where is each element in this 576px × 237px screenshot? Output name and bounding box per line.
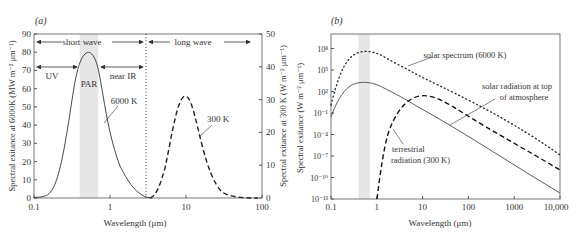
svg-text:300 K: 300 K (207, 114, 230, 124)
svg-text:100: 100 (255, 202, 269, 212)
svg-text:10⁻¹⁰: 10⁻¹⁰ (310, 174, 328, 183)
svg-text:10: 10 (22, 175, 32, 185)
y-axis-label: Spectral exitance (W m⁻² μm⁻¹) (295, 63, 305, 173)
svg-text:40: 40 (266, 62, 276, 72)
label-solar-spectrum: solar spectrum (6000 K) (408, 50, 507, 66)
svg-text:10: 10 (266, 160, 276, 170)
svg-text:60: 60 (22, 84, 32, 94)
svg-text:short wave: short wave (62, 37, 101, 47)
svg-text:10⁻⁷: 10⁻⁷ (313, 152, 328, 161)
svg-text:10⁻⁴: 10⁻⁴ (313, 131, 328, 140)
svg-text:50: 50 (22, 102, 32, 112)
svg-text:1000: 1000 (505, 202, 524, 212)
svg-text:30: 30 (266, 95, 276, 105)
svg-text:10⁵: 10⁵ (317, 66, 328, 75)
svg-text:20: 20 (266, 127, 276, 137)
svg-text:0.1: 0.1 (325, 202, 336, 212)
label-6000k: 6000 K (104, 96, 138, 123)
y-axis-right-label: Spectral exitance at 300 K (W m⁻² μm⁻¹) (278, 45, 288, 187)
panel-b-label: (b) (331, 15, 343, 27)
x-axis-label: Wavelength (μm) (104, 218, 167, 228)
svg-text:terrestrial: terrestrial (392, 144, 425, 154)
panel-b: (b) 10⁻¹³ 10⁻¹⁰ 10⁻⁷ 10⁻⁴ 10⁻¹ 10² 10⁵ 1… (295, 15, 569, 228)
svg-text:70: 70 (22, 65, 32, 75)
par-band (80, 34, 99, 198)
panel-a: (a) 0 10 20 30 40 50 60 70 80 90 0 10 20… (7, 15, 288, 228)
figure: (a) 0 10 20 30 40 50 60 70 80 90 0 10 20… (0, 0, 576, 237)
svg-text:90: 90 (22, 29, 32, 39)
svg-text:of atmosphere: of atmosphere (500, 92, 549, 102)
visible-band (359, 34, 370, 199)
svg-text:30: 30 (22, 138, 32, 148)
svg-text:10,000: 10,000 (544, 202, 569, 212)
label-solar-top-atmosphere: solar radiation at top of atmosphere (450, 81, 552, 125)
near-ir-arrow: near IR (101, 67, 143, 81)
y-axis-left-ticks: 0 10 20 30 40 50 60 70 80 90 (22, 29, 37, 203)
label-300k: 300 K (199, 114, 230, 137)
svg-text:solar spectrum (6000 K): solar spectrum (6000 K) (424, 50, 507, 60)
svg-text:1: 1 (375, 202, 380, 212)
svg-text:10: 10 (182, 202, 192, 212)
curve-300k (150, 96, 258, 198)
uv-arrow: UV (37, 67, 77, 81)
svg-text:10²: 10² (318, 88, 329, 97)
svg-text:near IR: near IR (110, 71, 137, 81)
svg-text:6000 K: 6000 K (111, 96, 138, 106)
svg-text:40: 40 (22, 120, 32, 130)
svg-text:0.1: 0.1 (28, 202, 39, 212)
svg-text:UV: UV (46, 71, 59, 81)
svg-text:radiation (300 K): radiation (300 K) (391, 155, 450, 165)
svg-text:50: 50 (266, 29, 276, 39)
svg-text:long wave: long wave (174, 37, 211, 47)
panel-a-label: (a) (35, 15, 47, 27)
long-wave-arrow: long wave (149, 37, 250, 47)
svg-text:10: 10 (418, 202, 428, 212)
label-terrestrial: terrestrial radiation (300 K) (391, 129, 450, 165)
y-axis-right-ticks: 0 10 20 30 40 50 (259, 29, 276, 203)
svg-text:solar radiation at top: solar radiation at top (482, 81, 552, 91)
y-axis-left-label: Spectral exitance at 6000K (MW m⁻² μm⁻¹) (7, 40, 17, 191)
x-axis-label: Wavelength (μm) (409, 218, 472, 228)
svg-text:100: 100 (462, 202, 476, 212)
y-axis-ticks: 10⁻¹³ 10⁻¹⁰ 10⁻⁷ 10⁻⁴ 10⁻¹ 10² 10⁵ 10⁸ (310, 45, 334, 205)
svg-text:20: 20 (22, 157, 32, 167)
svg-text:10⁻¹: 10⁻¹ (313, 109, 328, 118)
par-label: PAR (81, 79, 98, 89)
svg-text:10⁸: 10⁸ (317, 45, 328, 54)
svg-text:1: 1 (108, 202, 113, 212)
svg-text:80: 80 (22, 47, 32, 57)
short-wave-arrow: short wave (37, 37, 143, 47)
